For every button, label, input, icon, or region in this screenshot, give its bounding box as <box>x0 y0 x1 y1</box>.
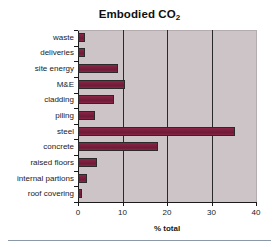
x-tick-label-40: 40 <box>241 208 271 217</box>
x-tick-30 <box>212 202 213 206</box>
bar-fill <box>78 111 95 120</box>
y-label-concrete: concrete <box>0 142 74 151</box>
y-tick-5 <box>74 108 78 109</box>
bottom-divider <box>8 240 271 241</box>
y-label-raised-floors: raised floors <box>0 158 74 167</box>
y-label-waste: waste <box>0 33 74 42</box>
bar-waste <box>78 33 85 42</box>
y-label-internal-partions: internal partions <box>0 174 74 183</box>
bar-m-e <box>78 80 125 89</box>
y-label-m-e: M&E <box>0 80 74 89</box>
bar-roof-covering <box>78 189 82 198</box>
y-tick-6 <box>74 124 78 125</box>
x-tick-label-20: 20 <box>152 208 182 217</box>
x-tick-0 <box>78 202 79 206</box>
gridline-10 <box>123 30 124 202</box>
y-label-steel: steel <box>0 127 74 136</box>
bar-site-energy <box>78 64 118 73</box>
y-tick-7 <box>74 139 78 140</box>
bar-fill <box>78 158 97 167</box>
bar-steel <box>78 127 235 136</box>
y-tick-1 <box>74 46 78 47</box>
y-tick-0 <box>74 30 78 31</box>
bar-deliveries <box>78 48 85 57</box>
y-tick-4 <box>74 93 78 94</box>
bar-concrete <box>78 142 158 151</box>
x-axis-title: % total <box>78 224 256 233</box>
y-label-site-energy: site energy <box>0 64 74 73</box>
y-tick-2 <box>74 61 78 62</box>
y-label-cladding: cladding <box>0 95 74 104</box>
y-tick-3 <box>74 77 78 78</box>
x-tick-label-0: 0 <box>63 208 93 217</box>
bar-fill <box>78 189 82 198</box>
chart-title-main: Embodied CO <box>99 8 176 20</box>
bar-fill <box>78 142 158 151</box>
y-label-piling: piling <box>0 111 74 120</box>
bar-fill <box>78 80 125 89</box>
y-tick-9 <box>74 171 78 172</box>
embodied-co2-bar-chart: Embodied CO2 wastedeliveriessite energyM… <box>0 0 279 247</box>
x-tick-20 <box>167 202 168 206</box>
bar-piling <box>78 111 95 120</box>
y-label-roof-covering: roof covering <box>0 189 74 198</box>
plot-frame-right <box>256 30 257 202</box>
x-tick-label-10: 10 <box>108 208 138 217</box>
bar-fill <box>78 64 118 73</box>
gridline-20 <box>167 30 168 202</box>
chart-title: Embodied CO2 <box>0 8 279 22</box>
y-tick-8 <box>74 155 78 156</box>
bar-internal-partions <box>78 174 87 183</box>
bar-fill <box>78 95 114 104</box>
bar-fill <box>78 174 87 183</box>
bar-raised-floors <box>78 158 97 167</box>
y-tick-10 <box>74 186 78 187</box>
bar-fill <box>78 33 85 42</box>
bar-fill <box>78 48 85 57</box>
y-label-deliveries: deliveries <box>0 48 74 57</box>
bar-fill <box>78 127 235 136</box>
gridline-30 <box>212 30 213 202</box>
x-tick-10 <box>123 202 124 206</box>
x-tick-40 <box>256 202 257 206</box>
x-tick-label-30: 30 <box>197 208 227 217</box>
chart-title-subscript: 2 <box>176 13 181 22</box>
bar-cladding <box>78 95 114 104</box>
